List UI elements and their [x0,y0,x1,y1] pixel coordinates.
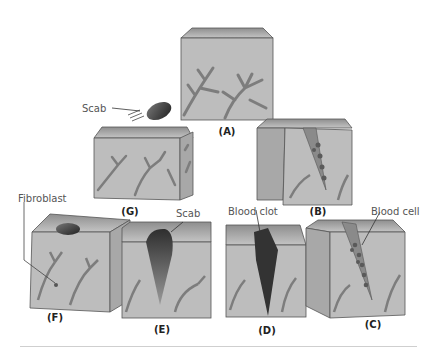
label-panel-g: (G) [121,206,138,217]
label-panel-e: (E) [154,324,170,335]
annotation-scab-g: Scab [82,103,106,114]
annotation-scab-e: Scab [176,208,200,219]
panel-a-skin-block [181,28,273,120]
panel-g-healed-skin [94,98,193,200]
bottom-divider [20,346,417,347]
label-panel-b: (B) [310,206,327,217]
wound-healing-diagram [0,0,429,355]
label-panel-f: (F) [47,312,63,323]
label-panel-a: (A) [219,126,236,137]
panel-f-fibroblast-repair [24,202,130,312]
annotation-blood-cell: Blood cell [371,206,420,217]
panel-c-blood-cells [306,212,405,318]
scab-icon [144,98,174,123]
annotation-fibroblast: Fibroblast [18,193,67,204]
label-panel-d: (D) [258,325,275,336]
panel-e-scab-forming [122,222,211,318]
panel-d-blood-clot [226,210,306,317]
panel-b-fresh-wound [257,119,352,205]
annotation-blood-clot: Blood clot [228,206,278,217]
label-panel-c: (C) [365,319,381,330]
